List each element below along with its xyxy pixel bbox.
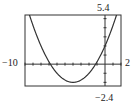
axes	[25, 15, 121, 86]
viewing-window-frame	[25, 15, 121, 86]
xmax-label: 2	[125, 58, 130, 68]
graph-window	[0, 0, 134, 107]
xmin-label: −10	[2, 58, 18, 68]
ymax-label: 5.4	[97, 3, 110, 13]
ymin-label: −2.4	[95, 93, 113, 103]
